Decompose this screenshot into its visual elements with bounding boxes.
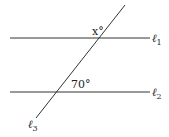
line-l1-subscript: 1 — [157, 38, 162, 47]
line-l3-label: ℓ3 — [28, 119, 38, 133]
angle-70-label: 70° — [71, 79, 91, 90]
line-l3-subscript: 3 — [33, 124, 38, 133]
line-l2-label: ℓ2 — [152, 87, 162, 101]
diagram-canvas — [0, 0, 169, 137]
line-l3-transversal — [36, 5, 125, 118]
line-l2-subscript: 2 — [157, 92, 162, 101]
angle-x-label: x° — [92, 26, 104, 37]
line-l1-label: ℓ1 — [152, 33, 162, 47]
